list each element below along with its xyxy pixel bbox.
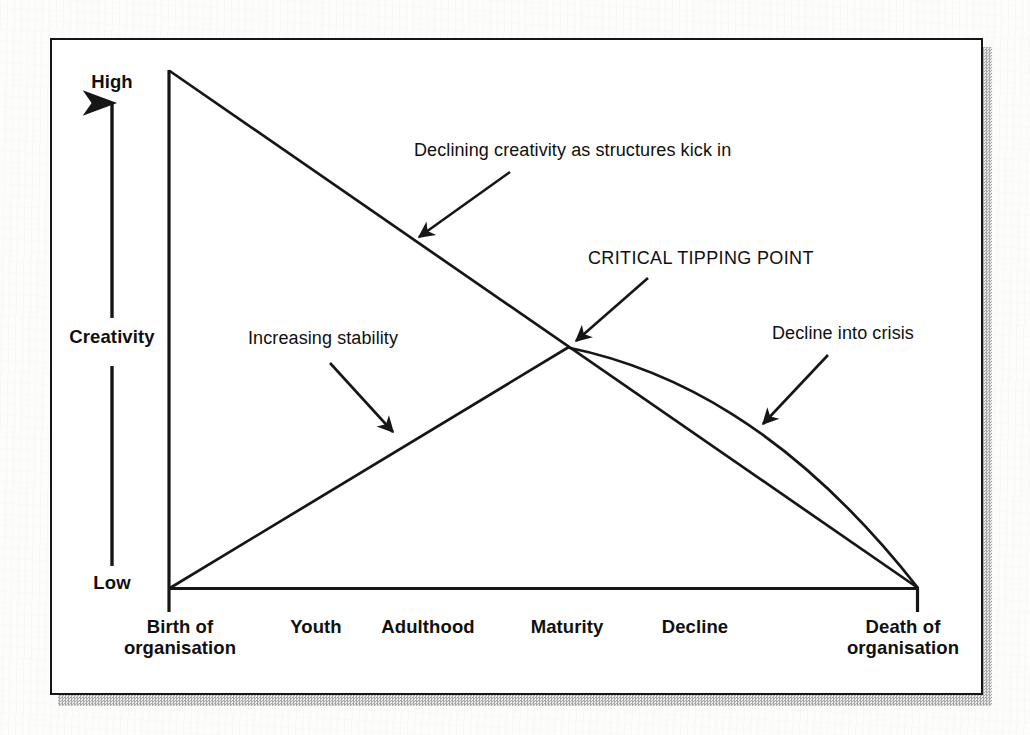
annotation-critical-tipping-point: CRITICAL TIPPING POINT	[588, 248, 814, 269]
annotation-decline-into-crisis: Decline into crisis	[772, 323, 914, 344]
x-axis-label-birth-of-organisation: Birth of organisation	[124, 616, 236, 658]
x-axis-label-death-of-organisation: Death of organisation	[847, 616, 959, 658]
x-axis-label-death-line1: Death of	[847, 616, 959, 637]
y-axis-low-label: Low	[93, 572, 130, 593]
x-axis-label-death-line2: organisation	[847, 637, 959, 658]
x-axis-label-adulthood: Adulthood	[381, 616, 474, 637]
x-axis-label-birth-line1: Birth of	[124, 616, 236, 637]
annotation-increasing-stability: Increasing stability	[248, 328, 398, 349]
x-axis-label-maturity: Maturity	[531, 616, 604, 637]
annotation-declining-creativity: Declining creativity as structures kick …	[414, 140, 731, 161]
x-axis-label-decline: Decline	[662, 616, 729, 637]
figure-frame	[50, 38, 983, 695]
x-axis-label-youth: Youth	[290, 616, 342, 637]
y-axis-high-label: High	[91, 71, 133, 92]
x-axis-label-birth-line2: organisation	[124, 637, 236, 658]
y-axis-title: Creativity	[69, 326, 154, 347]
